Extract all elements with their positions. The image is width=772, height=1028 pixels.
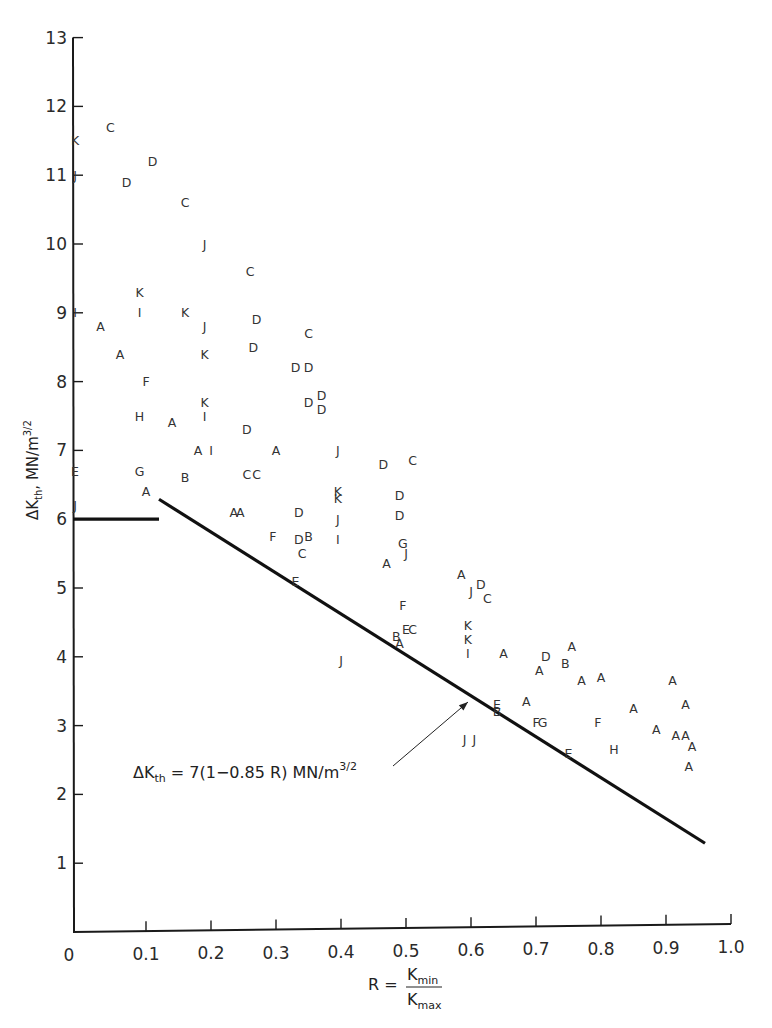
data-point-c: C (408, 453, 417, 468)
data-point-j: J (202, 237, 207, 252)
data-point-k: K (200, 347, 209, 362)
data-point-d: D (317, 402, 327, 417)
data-point-a: A (535, 663, 544, 678)
data-point-a: A (671, 728, 680, 743)
data-point-i: I (336, 532, 340, 547)
data-point-d: D (294, 532, 304, 547)
fit-line (159, 499, 705, 843)
data-point-a: A (382, 556, 391, 571)
data-point-d: D (242, 422, 252, 437)
data-point-a: A (116, 347, 125, 362)
data-point-j: J (335, 512, 340, 527)
data-point-e: E (292, 574, 300, 589)
data-point-a: A (272, 443, 281, 458)
data-point-c: C (408, 622, 417, 637)
data-point-g: G (538, 715, 548, 730)
x-tick-label: 0.5 (392, 941, 419, 961)
data-point-c: C (252, 467, 261, 482)
y-tick-label: 6 (56, 509, 67, 529)
data-point-c: C (483, 591, 492, 606)
data-point-a: A (567, 639, 576, 654)
data-point-a: A (142, 484, 151, 499)
y-tick-label: 12 (45, 96, 67, 116)
data-point-a: A (236, 505, 245, 520)
data-point-e: E (565, 746, 573, 761)
data-point-a: A (688, 739, 697, 754)
x-tick-label: 0.1 (132, 944, 159, 964)
y-tick-label: 3 (56, 716, 67, 736)
data-point-d: D (541, 649, 551, 664)
data-point-h: H (135, 409, 144, 424)
data-point-c: C (298, 546, 307, 561)
equation-annotation: ΔKth = 7(1−0.85 R) MN/m3/2 (133, 702, 468, 785)
x-tick-label: 0.6 (457, 940, 484, 960)
data-point-d: D (317, 388, 327, 403)
x-tick-label: 0.7 (522, 939, 549, 959)
fit-lines (73, 499, 705, 843)
data-point-a: A (629, 701, 638, 716)
data-point-j: J (72, 168, 77, 183)
data-point-k: K (135, 285, 144, 300)
x-tick-label: 0.2 (197, 943, 224, 963)
data-point-d: D (248, 340, 258, 355)
y-tick-label: 13 (45, 28, 67, 48)
data-point-d: D (476, 577, 486, 592)
data-point-b: B (304, 529, 313, 544)
data-point-a: A (395, 636, 404, 651)
data-point-k: K (334, 491, 343, 506)
y-tick-label: 9 (56, 303, 67, 323)
data-point-d: D (304, 360, 314, 375)
data-point-a: A (668, 673, 677, 688)
data-point-d: D (395, 508, 405, 523)
data-point-j: J (202, 319, 207, 334)
data-point-a: A (681, 697, 690, 712)
data-point-a: A (597, 670, 606, 685)
data-point-c: C (304, 326, 313, 341)
data-point-d: D (291, 360, 301, 375)
x-tick-label: 0.4 (327, 942, 354, 962)
data-point-g: G (135, 464, 145, 479)
data-point-k: K (464, 632, 473, 647)
x-tick-label: 0.3 (262, 943, 289, 963)
data-point-e: E (71, 464, 79, 479)
scatter-plot: 1234567891011121300.10.20.30.40.50.60.70… (0, 0, 772, 1028)
data-point-c: C (106, 120, 115, 135)
data-point-b: B (493, 704, 502, 719)
y-tick-label: 10 (45, 234, 67, 254)
y-tick-label: 1 (56, 853, 67, 873)
x-tick-label: 1.0 (717, 937, 744, 957)
data-point-d: D (395, 488, 405, 503)
y-tick-label: 8 (56, 372, 67, 392)
data-point-k: K (464, 618, 473, 633)
data-point-f: F (399, 598, 406, 613)
y-tick-label: 4 (56, 647, 67, 667)
fatigue-threshold-chart: 1234567891011121300.10.20.30.40.50.60.70… (0, 0, 772, 1028)
equation-label: ΔKth = 7(1−0.85 R) MN/m3/2 (133, 760, 357, 785)
data-point-a: A (457, 567, 466, 582)
data-point-c: C (246, 264, 255, 279)
data-point-d: D (122, 175, 132, 190)
data-point-i: I (203, 409, 207, 424)
y-tick-label: 11 (45, 165, 67, 185)
data-point-i: I (138, 305, 142, 320)
data-point-a: A (168, 415, 177, 430)
svg-text:Kmin: Kmin (407, 965, 438, 987)
data-point-j: J (468, 584, 473, 599)
data-point-d: D (304, 395, 314, 410)
data-point-i: I (209, 443, 213, 458)
data-point-d: D (294, 505, 304, 520)
x-tick-label: 0.9 (652, 938, 679, 958)
data-point-a: A (96, 319, 105, 334)
data-point-i: I (466, 646, 470, 661)
data-points: KCJDDCJCKIIKAJDCAKDDDFKIHADDDDAIAJEJGABC… (71, 120, 697, 775)
data-point-f: F (269, 529, 276, 544)
data-point-f: F (142, 374, 149, 389)
data-point-d: D (378, 457, 388, 472)
x-axis-label: R =KminKmax (368, 965, 442, 1012)
data-point-j: J (471, 732, 476, 747)
data-point-j: J (462, 732, 467, 747)
y-tick-label: 2 (56, 784, 67, 804)
data-point-j: J (403, 546, 408, 561)
y-tick-label: 5 (56, 578, 67, 598)
data-point-k: K (181, 305, 190, 320)
